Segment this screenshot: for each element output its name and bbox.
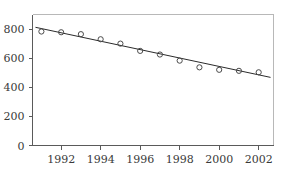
x-tick-label: 1998 [166, 153, 194, 166]
y-axis: 0200400600800 [4, 15, 33, 153]
x-axis: 199219941996199820002002 [33, 146, 274, 166]
trend-line-group [35, 27, 270, 77]
y-tick-label: 200 [4, 110, 25, 123]
y-tick-label: 600 [4, 52, 25, 65]
data-point-marker [138, 48, 143, 53]
y-tick-label: 800 [4, 23, 25, 36]
x-tick-label: 2000 [205, 153, 233, 166]
data-point-marker [217, 67, 222, 72]
data-point-marker [197, 65, 202, 70]
x-tick-label: 1996 [126, 153, 154, 166]
data-point-marker [39, 29, 44, 34]
chart-container: 0200400600800 199219941996199820002002 [0, 0, 290, 175]
trend-line [35, 27, 270, 77]
x-tick-label: 2002 [245, 153, 273, 166]
data-point-marker [177, 58, 182, 63]
x-tick-group: 199219941996199820002002 [47, 146, 273, 166]
y-tick-label: 0 [18, 140, 25, 153]
line-chart: 0200400600800 199219941996199820002002 [0, 0, 290, 175]
x-tick-label: 1992 [47, 153, 75, 166]
data-point-marker [78, 32, 83, 37]
x-tick-label: 1994 [87, 153, 115, 166]
y-tick-label: 400 [4, 81, 25, 94]
y-tick-group: 0200400600800 [4, 23, 33, 152]
data-point-marker [256, 70, 261, 75]
